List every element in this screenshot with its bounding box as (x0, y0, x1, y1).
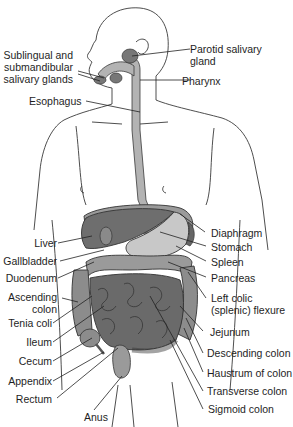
label-left-colic-flexure: Left colic (splenic) flexure (211, 292, 285, 316)
label-stomach: Stomach (211, 241, 252, 253)
ear (136, 39, 148, 54)
label-ileum: Ileum (26, 336, 52, 348)
label-line: salivary glands (4, 73, 73, 85)
label-line: (splenic) flexure (211, 304, 285, 316)
label-appendix: Appendix (8, 375, 52, 387)
label-gallbladder: Gallbladder (3, 255, 57, 267)
label-line: Parotid salivary (190, 43, 262, 55)
submandibular-gland (110, 73, 122, 83)
label-diaphragm: Diaphragm (211, 227, 262, 239)
label-sublingual-salivary-glands: Sublingual and submandibular salivary gl… (4, 49, 73, 85)
label-tenia-coli: Tenia coli (8, 317, 52, 329)
label-rectum: Rectum (16, 393, 52, 405)
label-sigmoid-colon: Sigmoid colon (208, 403, 274, 415)
label-pharynx: Pharynx (182, 75, 221, 87)
label-parotid-salivary-gland: Parotid salivary gland (190, 43, 262, 67)
label-pancreas: Pancreas (211, 272, 255, 284)
label-line: Sublingual and (4, 49, 73, 61)
parotid-gland (122, 49, 138, 63)
label-spleen: Spleen (211, 256, 244, 268)
label-line: gland (190, 55, 262, 67)
esophagus (128, 58, 150, 210)
label-line: colon (8, 303, 57, 315)
label-esophagus: Esophagus (29, 95, 82, 107)
label-transverse-colon: Transverse colon (207, 385, 287, 397)
label-cecum: Cecum (19, 355, 52, 367)
label-line: Left colic (211, 292, 285, 304)
gallbladder (100, 227, 112, 245)
label-line: submandibular (4, 61, 73, 73)
small-intestine (90, 274, 183, 350)
label-haustrum-of-colon: Haustrum of colon (207, 367, 292, 379)
label-anus: Anus (84, 411, 108, 423)
label-ascending-colon: Ascending colon (8, 291, 57, 315)
label-descending-colon: Descending colon (207, 347, 290, 359)
label-line: Ascending (8, 291, 57, 303)
label-liver: Liver (34, 237, 57, 249)
label-jejunum: Jejunum (210, 326, 250, 338)
label-duodenum: Duodenum (6, 272, 57, 284)
